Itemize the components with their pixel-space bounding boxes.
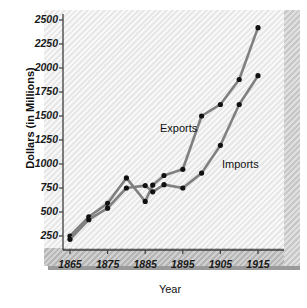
chart-figure: 2500225020001750150012501000750500250 18…: [0, 0, 307, 308]
data-point-exports-1900: [199, 113, 204, 118]
data-point-imports-1880: [124, 185, 129, 190]
data-point-exports-1885: [143, 199, 148, 204]
x-axis-title: Year: [44, 283, 296, 295]
data-point-exports-1890: [161, 173, 166, 178]
data-point-imports-1885: [143, 183, 148, 188]
data-point-imports-1895: [180, 185, 185, 190]
y-axis-tick-label: 500: [10, 205, 58, 217]
data-point-exports-1880: [124, 175, 129, 180]
data-point-exports-1887: [150, 183, 155, 188]
data-point-imports-1865: [67, 237, 72, 242]
data-point-imports-1890: [161, 182, 166, 187]
data-point-imports-1915: [255, 73, 260, 78]
data-point-imports-1875: [105, 206, 110, 211]
data-point-imports-1870: [86, 217, 91, 222]
data-point-exports-1910: [237, 77, 242, 82]
x-axis-tick-label: 1915: [236, 258, 280, 270]
data-point-exports-1915: [255, 25, 260, 30]
data-point-exports-1905: [218, 102, 223, 107]
data-point-exports-1895: [180, 167, 185, 172]
y-axis-tick-label: 2500: [10, 13, 58, 25]
data-point-imports-1900: [199, 171, 204, 176]
data-point-imports-1887: [150, 189, 155, 194]
data-point-imports-1910: [237, 102, 242, 107]
series-annotation-imports: Imports: [222, 158, 259, 170]
data-point-imports-1905: [218, 143, 223, 148]
series-annotation-exports: Exports: [160, 122, 197, 134]
y-axis-tick-label: 250: [10, 229, 58, 241]
y-axis-title: Dollars (in Millions): [24, 38, 36, 198]
